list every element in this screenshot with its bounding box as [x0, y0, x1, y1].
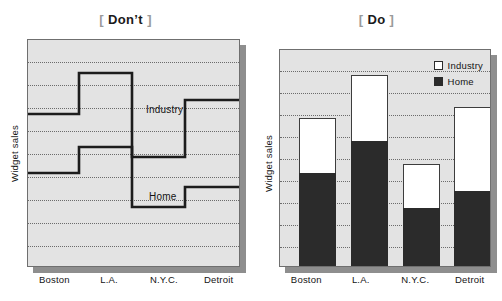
legend-item-industry[interactable]: Industry: [434, 59, 483, 72]
left-chart-step-lines: [28, 40, 240, 267]
left-chart-y-axis-label: Widget sales: [9, 123, 20, 185]
right-chart-plot-area: Industry Home: [279, 49, 491, 267]
legend-swatch-industry-icon: [434, 61, 443, 70]
legend-swatch-home-icon: [434, 77, 443, 86]
panel-dont: [ Don’t ] Widget sales: [0, 0, 251, 301]
right-chart-y-axis-label: Widget sales: [263, 133, 274, 195]
bar-segment-industry-boston: [299, 118, 336, 174]
bar-segment-industry-la: [351, 75, 388, 142]
bracket-open-icon: [: [359, 12, 364, 27]
left-chart-x-axis-labels: Boston L.A. N.Y.C. Detroit: [27, 274, 246, 285]
left-x-label-boston: Boston: [27, 274, 82, 285]
right-chart-x-axis-labels: Boston L.A. N.Y.C. Detroit: [279, 274, 497, 285]
left-x-label-nyc: N.Y.C.: [137, 274, 192, 285]
bar-segment-industry-nyc: [403, 164, 440, 209]
legend-item-home[interactable]: Home: [434, 75, 483, 88]
bar-segment-home-detroit: [454, 191, 491, 266]
right-x-label-nyc: N.Y.C.: [388, 274, 443, 285]
step-line-industry: [28, 73, 240, 157]
bar-segment-home-nyc: [403, 208, 440, 266]
right-x-label-boston: Boston: [279, 274, 334, 285]
bracket-close-icon: ]: [147, 12, 152, 27]
panel-dont-title-text: Don’t: [108, 12, 143, 27]
bar-boston[interactable]: [299, 118, 336, 266]
right-x-label-la: L.A.: [334, 274, 389, 285]
left-chart-panel: Industry Home: [27, 39, 240, 267]
bracket-close-icon: ]: [390, 12, 395, 27]
legend-label-industry: Industry: [448, 60, 483, 71]
bracket-open-icon: [: [99, 12, 104, 27]
figure-root: [ Don’t ] Widget sales: [0, 0, 502, 301]
left-chart-plot-area: Industry Home: [27, 39, 240, 267]
bar-detroit[interactable]: [454, 107, 491, 266]
right-chart-panel: Industry Home: [279, 49, 491, 267]
legend-label-home: Home: [448, 76, 474, 87]
panel-do-title: [ Do ]: [251, 12, 502, 27]
left-x-label-detroit: Detroit: [191, 274, 246, 285]
left-chart-inline-label-industry: Industry: [146, 104, 183, 115]
bar-nyc[interactable]: [403, 164, 440, 266]
left-x-label-la: L.A.: [82, 274, 137, 285]
right-x-label-detroit: Detroit: [443, 274, 498, 285]
bar-la[interactable]: [351, 75, 388, 266]
bar-segment-home-boston: [299, 173, 336, 266]
right-chart-legend: Industry Home: [434, 59, 483, 91]
panel-do-title-text: Do: [367, 12, 385, 27]
panel-dont-title: [ Don’t ]: [0, 12, 251, 27]
bar-segment-industry-detroit: [454, 107, 491, 192]
bar-segment-home-la: [351, 141, 388, 266]
panel-do: [ Do ] Widget sales: [251, 0, 502, 301]
left-chart-inline-label-home: Home: [149, 191, 176, 202]
